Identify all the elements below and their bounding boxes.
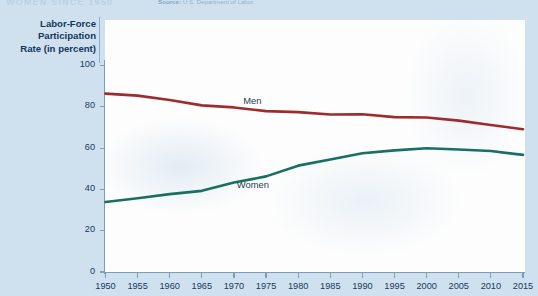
series-line-men [106,94,524,130]
series-line-women [106,148,524,202]
series-label-women: Women [237,179,269,190]
series-label-men: Men [243,95,261,106]
